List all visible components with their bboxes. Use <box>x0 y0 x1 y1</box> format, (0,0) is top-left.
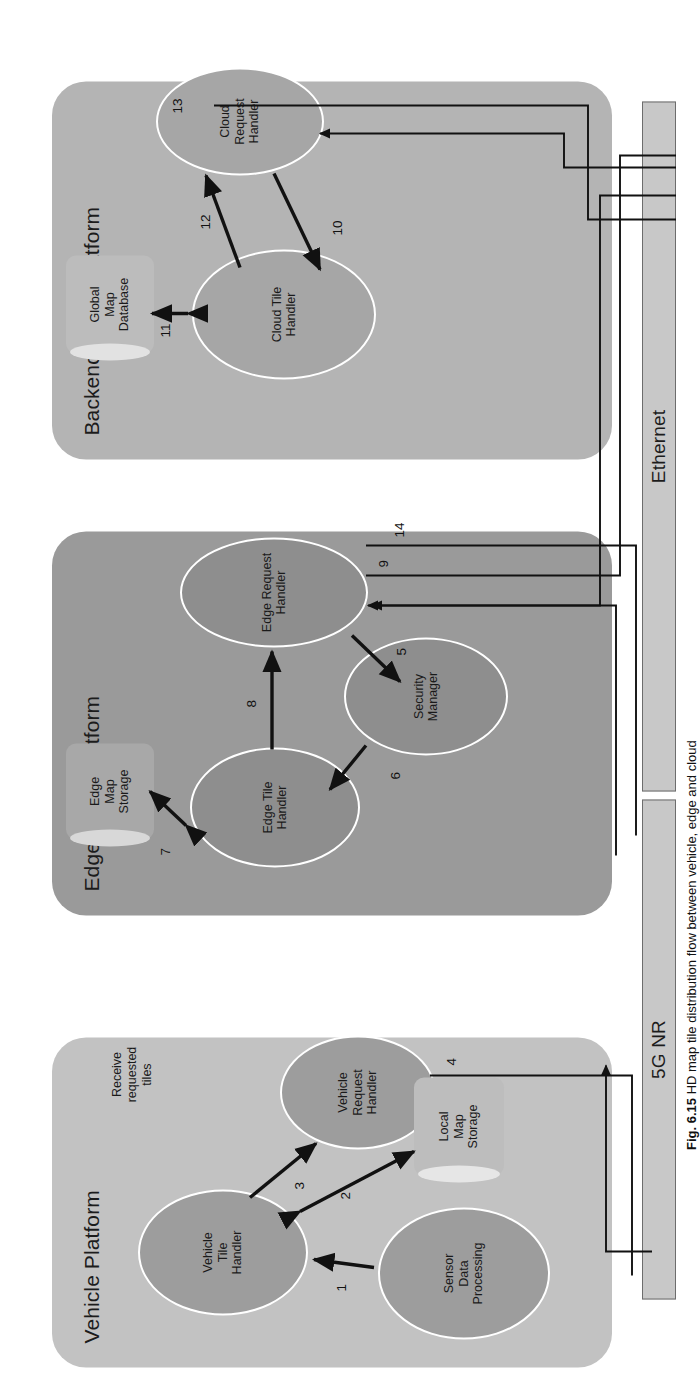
node-local-map-storage-label: LocalMapStorage <box>437 1104 481 1148</box>
edge-label-5: 5 <box>394 647 409 655</box>
edge-label-1: 1 <box>334 1283 349 1291</box>
diagram-root: Vehicle Platform SensorDataProcessing Ve… <box>0 0 700 1395</box>
wire-9 <box>366 155 676 575</box>
node-global-map-database-label: GlobalMapDatabase <box>88 277 132 331</box>
wire-9-in <box>368 195 676 605</box>
arrow-10 <box>274 173 320 269</box>
edge-label-12: 12 <box>198 214 213 229</box>
edge-label-7: 7 <box>158 847 173 855</box>
connector-layer <box>0 0 700 1395</box>
edge-label-6: 6 <box>388 771 403 779</box>
arrow-5 <box>352 635 400 681</box>
arrow-1 <box>314 1259 374 1267</box>
wire-receive-tiles <box>606 1065 652 1251</box>
arrow-7 <box>150 791 186 825</box>
edge-label-2: 2 <box>338 1191 353 1199</box>
wire-14 <box>366 545 636 835</box>
arrow-6 <box>330 745 366 789</box>
figure-caption: Fig. 6.15 HD map tile distribution flow … <box>684 740 699 1150</box>
edge-label-11: 11 <box>158 323 173 337</box>
figure-caption-text: HD map tile distribution flow between ve… <box>684 740 699 1094</box>
edge-label-4: 4 <box>444 1057 459 1065</box>
figure-caption-label: Fig. 6.15 <box>684 1098 699 1150</box>
edge-label-10: 10 <box>330 220 345 235</box>
edge-label-9: 9 <box>376 559 391 567</box>
edge-label-13: 13 <box>170 98 185 113</box>
edge-label-8: 8 <box>244 699 259 707</box>
edge-label-14: 14 <box>392 522 407 537</box>
edge-label-3: 3 <box>292 1181 307 1189</box>
wire-13 <box>214 105 676 219</box>
node-edge-map-storage-label: EdgeMapStorage <box>88 769 132 813</box>
wire-13-in <box>320 133 676 167</box>
arrow-2 <box>300 1151 414 1211</box>
wire-14-in <box>372 605 616 855</box>
figure-canvas: Vehicle Platform SensorDataProcessing Ve… <box>0 0 700 1395</box>
